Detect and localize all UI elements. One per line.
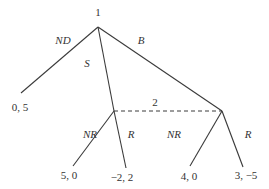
action-label-left-r: R: [127, 128, 135, 140]
payoff-b-r: 3, −5: [235, 169, 258, 181]
action-label-b: B: [138, 34, 145, 46]
root-player-label: 1: [95, 6, 101, 18]
information-set-label: 2: [152, 96, 158, 108]
action-label-nd: ND: [54, 34, 70, 46]
game-tree: 1 ND S B 2 NR R NR R 0, 5 5, 0 −2, 2 4, …: [0, 0, 269, 189]
action-label-s: S: [84, 57, 90, 69]
edge-b: [98, 27, 222, 111]
action-label-right-nr: NR: [166, 128, 181, 140]
edge-left-r: [114, 111, 126, 168]
payoff-b-nr: 4, 0: [181, 170, 198, 182]
payoff-s-nr: 5, 0: [61, 169, 78, 181]
action-label-right-r: R: [244, 128, 252, 140]
action-label-left-nr: NR: [82, 128, 97, 140]
payoff-s-r: −2, 2: [111, 171, 134, 183]
edge-right-nr: [190, 111, 222, 166]
edge-right-r: [222, 111, 243, 167]
payoff-nd: 0, 5: [12, 101, 29, 113]
edge-s: [98, 27, 114, 111]
